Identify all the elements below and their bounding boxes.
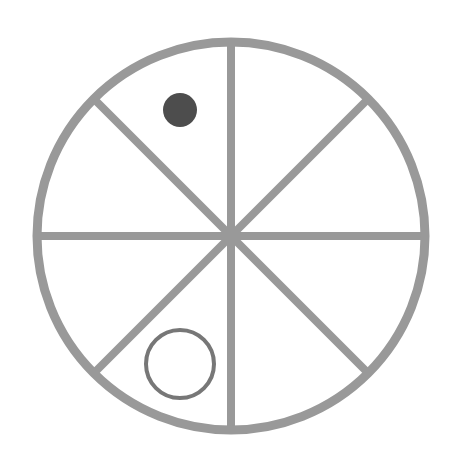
filled-dot-marker bbox=[163, 93, 197, 127]
divided-circle-diagram bbox=[0, 0, 459, 465]
hollow-ring-marker bbox=[146, 330, 214, 398]
diagram-canvas: divided-circle bbox=[0, 0, 459, 465]
